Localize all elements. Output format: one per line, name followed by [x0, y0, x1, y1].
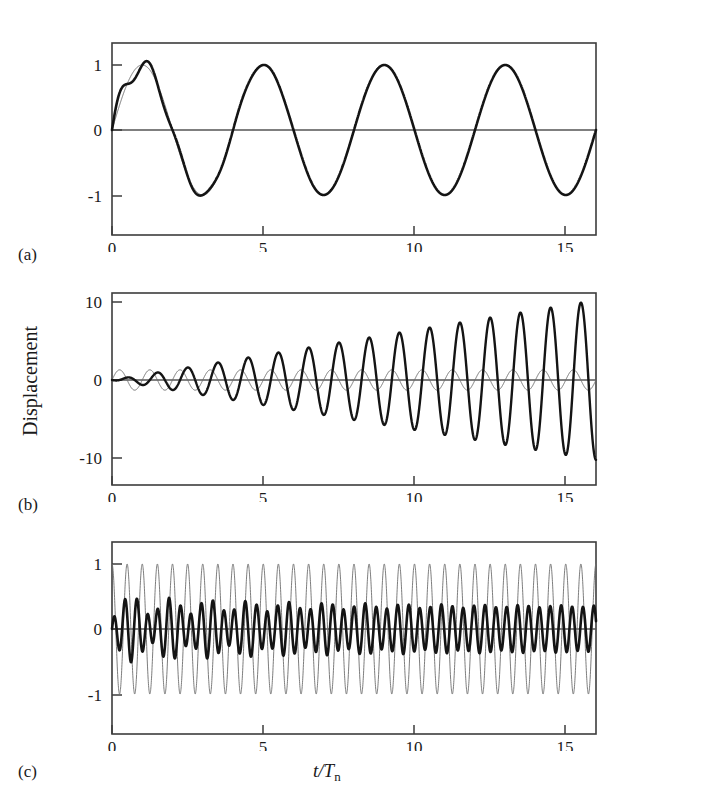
panel-a-xtick-0: 0: [108, 239, 117, 252]
panel-a-xtick-15: 15: [557, 239, 574, 252]
panel-b-ytick-10: 10: [85, 293, 102, 312]
panel-c-tag: (c): [18, 762, 37, 782]
panel-c-xtick-15: 15: [557, 738, 574, 751]
panel-a-ytick-minus1: -1: [88, 187, 102, 206]
panel-c-ytick-1: 1: [94, 555, 103, 574]
panel-b-plot: 10 0 -10 0 5 10 15: [0, 276, 640, 502]
panel-c-ytick-minus1: -1: [88, 686, 102, 705]
panel-a-tag: (a): [18, 245, 37, 265]
panel-b-ytick-0: 0: [94, 371, 103, 390]
panel-c-xtick-0: 0: [108, 738, 117, 751]
figure-root: Displacement 1 0 -1 0: [0, 0, 726, 811]
panel-c-xtick-5: 5: [259, 738, 268, 751]
panel-b-xtick-0: 0: [108, 489, 117, 502]
panel-c-xtick-10: 10: [406, 738, 423, 751]
panel-a: 1 0 -1 0 5 10 15: [0, 26, 640, 252]
panel-a-ytick-1: 1: [94, 56, 103, 75]
x-axis-title-main: t/T: [313, 760, 334, 781]
panel-a-plot: 1 0 -1 0 5 10 15: [0, 26, 640, 252]
panel-b-xtick-5: 5: [259, 489, 268, 502]
panel-b-ytick-minus10: -10: [79, 449, 102, 468]
x-axis-title-subscript: n: [334, 769, 341, 784]
panel-a-ytick-0: 0: [94, 121, 103, 140]
panel-b-xtick-10: 10: [406, 489, 423, 502]
panel-a-xtick-10: 10: [406, 239, 423, 252]
panel-a-frame: [112, 43, 596, 235]
panel-c-ytick-0: 0: [94, 620, 103, 639]
panel-c: 1 0 -1 0 5 10 15: [0, 525, 640, 751]
panel-c-plot: 1 0 -1 0 5 10 15: [0, 525, 640, 751]
x-axis-title: t/Tn: [313, 760, 341, 785]
panel-b-tag: (b): [18, 495, 38, 515]
panel-b-xtick-15: 15: [557, 489, 574, 502]
panel-a-xtick-5: 5: [259, 239, 268, 252]
panel-b: 10 0 -10 0 5 10 15: [0, 276, 640, 502]
